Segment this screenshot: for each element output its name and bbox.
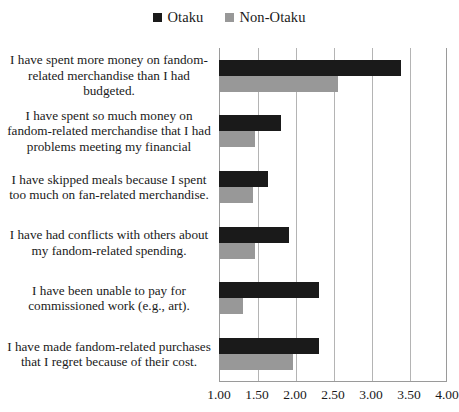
bar-non-otaku: [219, 243, 255, 259]
category-label: I have had conflicts with others about m…: [2, 227, 216, 258]
bar-non-otaku: [219, 187, 253, 203]
bar-otaku: [219, 115, 281, 131]
bar-group: [219, 171, 268, 203]
bar-group: [219, 338, 319, 370]
bar-non-otaku: [219, 131, 255, 147]
bar-otaku: [219, 282, 319, 298]
bar-group: [219, 227, 289, 259]
legend-item-otaku: Otaku: [153, 10, 203, 25]
x-tick-label: 1.50: [245, 386, 269, 404]
legend-swatch-otaku: [153, 13, 162, 22]
bar-group: [219, 282, 319, 314]
chart-row: I have spent more money on fandom-relate…: [0, 48, 459, 104]
bar-chart: Otaku Non-Otaku I have spent more money …: [0, 0, 459, 412]
category-label: I have been unable to pay for commission…: [2, 283, 216, 314]
bar-otaku: [219, 60, 401, 76]
chart-row: I have skipped meals because I spent too…: [0, 159, 459, 215]
legend-item-non-otaku: Non-Otaku: [225, 10, 305, 25]
x-tick-label: 1.00: [207, 386, 231, 404]
category-label: I have made fandom-related purchases tha…: [2, 339, 216, 370]
chart-row: I have had conflicts with others about m…: [0, 215, 459, 271]
x-tick-label: 3.50: [397, 386, 421, 404]
legend-swatch-non-otaku: [225, 13, 234, 22]
bar-non-otaku: [219, 354, 293, 370]
x-axis: 1.001.502.002.503.003.504.00: [0, 386, 459, 406]
x-tick-label: 4.00: [435, 386, 459, 404]
chart-rows: I have spent more money on fandom-relate…: [0, 48, 459, 382]
bar-otaku: [219, 171, 268, 187]
legend-label-otaku: Otaku: [167, 10, 203, 25]
bar-group: [219, 60, 401, 92]
bar-group: [219, 115, 281, 147]
x-tick-label: 2.00: [283, 386, 307, 404]
chart-row: I have made fandom-related purchases tha…: [0, 326, 459, 382]
x-tick-label: 3.00: [359, 386, 383, 404]
bar-non-otaku: [219, 76, 338, 92]
bar-otaku: [219, 338, 319, 354]
category-label: I have skipped meals because I spent too…: [2, 172, 216, 203]
category-label: I have spent so much money on fandom-rel…: [2, 108, 216, 155]
chart-row: I have spent so much money on fandom-rel…: [0, 104, 459, 160]
legend-label-non-otaku: Non-Otaku: [239, 10, 305, 25]
x-tick-label: 2.50: [321, 386, 345, 404]
chart-row: I have been unable to pay for commission…: [0, 271, 459, 327]
bar-non-otaku: [219, 298, 243, 314]
category-label: I have spent more money on fandom-relate…: [2, 52, 216, 99]
chart-legend: Otaku Non-Otaku: [0, 10, 459, 25]
bar-otaku: [219, 227, 289, 243]
